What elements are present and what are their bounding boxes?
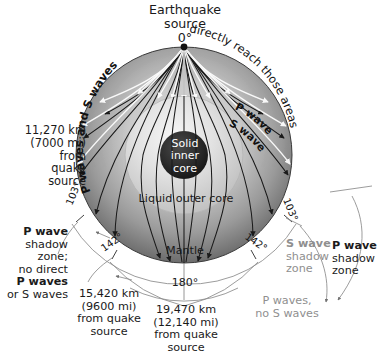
pz-left-line-1: P wave (0, 226, 68, 239)
inner-core-line-2: inner (160, 150, 210, 162)
pz-left-line-6: or S waves (0, 289, 68, 302)
pz-left-line-5: P waves (0, 276, 68, 289)
outer-core-label: Liquid outer core (116, 193, 256, 206)
dist-ul-line-1: 11,270 km (2, 124, 86, 137)
mantle-label: Mantle (152, 245, 218, 258)
leader-142-left (88, 258, 112, 282)
angle-label-zero: 0° (133, 31, 237, 45)
dist-ul-line-2: (7000 mi) (2, 137, 86, 150)
inner-core-line-3: core (160, 163, 210, 175)
distance-label-upper-left: 11,270 km (7000 mi) from quake source (2, 124, 86, 188)
dist-ll-line-1: 15,420 km (66, 288, 152, 301)
distance-label-bottom-center: 19,470 km (12,140 mi) from quake source (140, 304, 232, 354)
angle-label-180: 180° (150, 277, 220, 289)
sz-line-3: zone (286, 263, 336, 276)
p-waves-no-s-waves-label: P waves, no S waves (244, 295, 330, 320)
dist-ul-line-5: source (2, 175, 86, 188)
title-line-source: source (133, 17, 237, 31)
dist-bc-line-3: from quake (140, 329, 232, 342)
pz-right-line-3: zone (332, 265, 383, 278)
sz-line-1: S wave (286, 238, 336, 251)
p-wave-shadow-zone-left-label: P wave shadow zone; no direct P waves or… (0, 226, 68, 301)
po-line-1: P waves, (244, 295, 330, 308)
tick-left-142 (112, 250, 117, 259)
title-line-earthquake: Earthquake (133, 3, 237, 17)
leader-p-shadow (330, 186, 372, 192)
dist-bc-line-1: 19,470 km (140, 304, 232, 317)
pz-right-line-1: P wave (332, 240, 383, 253)
angle-label-right-103: 103° (281, 196, 300, 222)
inner-core-label: Solid inner core (160, 138, 210, 175)
page-title: Earthquake source 0° (133, 3, 237, 45)
pz-left-line-3: zone; (0, 251, 68, 264)
seismic-wave-diagram: P waves and S waves directly reach those… (0, 0, 383, 364)
p-wave-shadow-zone-right-label: P wave shadow zone (332, 240, 383, 278)
po-line-2: no S waves (244, 308, 330, 321)
tick-right-142 (251, 250, 256, 259)
leader-arrow-142 (116, 276, 132, 280)
s-wave-shadow-zone-label: S wave shadow zone (286, 238, 336, 276)
tick-left-103 (76, 215, 84, 222)
dist-bc-line-4: source (140, 342, 232, 355)
